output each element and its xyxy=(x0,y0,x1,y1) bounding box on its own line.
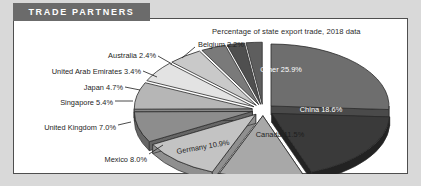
slice-label-belgium: Belgium 2.2% xyxy=(198,41,244,48)
slice-label-japan: Japan 4.7% xyxy=(84,84,123,91)
slice-label-australia: Australia 2.4% xyxy=(108,52,156,59)
pie-slice-other[interactable] xyxy=(271,44,389,110)
banner-title: TRADE PARTNERS xyxy=(28,8,134,17)
slice-value-label-china: China 18.6% xyxy=(300,106,343,113)
leader-line-australia xyxy=(158,56,172,64)
chart-subtitle: Percentage of state export trade, 2018 d… xyxy=(212,27,361,36)
slice-value-label-other: Other 25.9% xyxy=(260,66,302,73)
title-banner: TRADE PARTNERS xyxy=(13,3,150,21)
leader-line-uk xyxy=(118,122,131,125)
chart-screenshot: TRADE PARTNERS Percentage of state expor… xyxy=(0,0,421,186)
slice-label-singapore: Singapore 5.4% xyxy=(60,99,113,106)
slice-label-uae: United Arab Emirates 3.4% xyxy=(52,68,141,75)
leader-line-japan xyxy=(125,87,140,90)
pie-slices-group xyxy=(134,42,389,174)
slice-label-mexico: Mexico 8.0% xyxy=(104,156,147,163)
slice-value-label-canada: Canada 11.5% xyxy=(256,131,305,138)
slice-label-uk: United Kingdom 7.0% xyxy=(44,124,116,131)
